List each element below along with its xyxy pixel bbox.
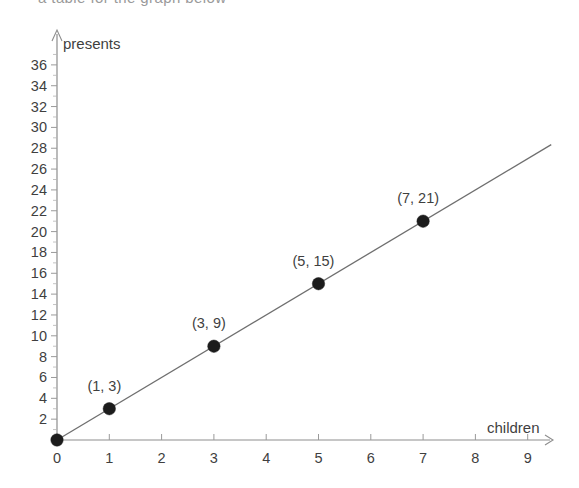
x-axis-ticks xyxy=(109,434,527,440)
y-tick-label: 34 xyxy=(31,78,47,94)
x-axis-title: children xyxy=(487,419,540,436)
y-tick-label: 18 xyxy=(31,244,47,260)
x-tick-label: 5 xyxy=(314,450,322,466)
y-tick-label: 22 xyxy=(31,203,47,219)
y-tick-label: 10 xyxy=(31,328,47,344)
data-point-label: (1, 3) xyxy=(87,378,121,394)
y-tick-label: 8 xyxy=(39,349,47,365)
x-tick-label: 2 xyxy=(158,450,166,466)
y-tick-label: 14 xyxy=(31,286,47,302)
data-point-dot[interactable] xyxy=(312,278,324,290)
coordinate-plane: 24681012141618202224262830323436 0123456… xyxy=(0,0,579,488)
x-tick-label: 8 xyxy=(471,450,479,466)
y-tick-label: 28 xyxy=(31,140,47,156)
x-tick-label: 3 xyxy=(210,450,218,466)
y-tick-label: 12 xyxy=(31,307,47,323)
y-tick-label: 16 xyxy=(31,265,47,281)
x-tick-label: 6 xyxy=(367,450,375,466)
axes-group xyxy=(52,30,553,445)
x-tick-label: 7 xyxy=(419,450,427,466)
data-series: (1, 3)(3, 9)(5, 15)(7, 21) xyxy=(51,145,551,447)
x-tick-label: 4 xyxy=(262,450,270,466)
data-point-dot[interactable] xyxy=(417,215,429,227)
data-point-labels: (1, 3)(3, 9)(5, 15)(7, 21) xyxy=(87,190,439,394)
y-tick-label: 30 xyxy=(31,119,47,135)
y-axis-title: presents xyxy=(63,35,121,52)
y-tick-label: 6 xyxy=(39,369,47,385)
y-tick-label: 4 xyxy=(39,390,47,406)
x-tick-label: 9 xyxy=(524,450,532,466)
data-point-label: (5, 15) xyxy=(293,253,335,269)
x-axis-tick-labels: 0123456789 xyxy=(53,450,532,466)
y-tick-label: 36 xyxy=(31,57,47,73)
data-point-dot[interactable] xyxy=(51,434,63,446)
trend-line xyxy=(57,145,551,440)
y-tick-label: 32 xyxy=(31,99,47,115)
data-point-label: (3, 9) xyxy=(192,315,226,331)
data-point-dot[interactable] xyxy=(208,340,220,352)
y-tick-label: 2 xyxy=(39,411,47,427)
y-tick-label: 24 xyxy=(31,182,47,198)
y-tick-label: 20 xyxy=(31,224,47,240)
data-point-label: (7, 21) xyxy=(397,190,439,206)
data-point-dot[interactable] xyxy=(103,403,115,415)
x-tick-label: 0 xyxy=(53,450,61,466)
y-tick-label: 26 xyxy=(31,161,47,177)
x-tick-label: 1 xyxy=(105,450,113,466)
graph-figure: a table for the graph below 246810121416… xyxy=(0,0,579,488)
y-axis-tick-labels: 24681012141618202224262830323436 xyxy=(31,57,47,427)
